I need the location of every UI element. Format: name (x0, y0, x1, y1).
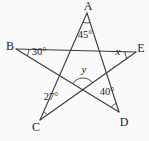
angle-label-40-at-d: 40° (100, 87, 115, 98)
vertex-label-e: E (137, 42, 144, 54)
vertex-label-c: C (32, 121, 40, 133)
angle-arc-y-intersection (73, 78, 93, 84)
angle-arc-b (27, 49, 29, 56)
vertex-label-d: D (120, 116, 129, 128)
angle-arc-a (83, 22, 90, 23)
angle-label-27-at-c: 27° (44, 92, 59, 103)
geometry-figure: A B C D E 45° 30° 27° 40° x y (0, 0, 149, 141)
angle-arc-c (44, 112, 48, 115)
angle-label-30-at-b: 30° (32, 47, 47, 58)
angle-arc-e (125, 52, 127, 59)
angle-label-x-at-e: x (116, 46, 121, 57)
vertex-label-b: B (6, 40, 14, 52)
angle-label-y-intersection: y (82, 64, 87, 75)
angle-arc-d (111, 103, 116, 107)
vertex-label-a: A (84, 0, 93, 12)
angle-label-45-at-a: 45° (78, 30, 93, 41)
